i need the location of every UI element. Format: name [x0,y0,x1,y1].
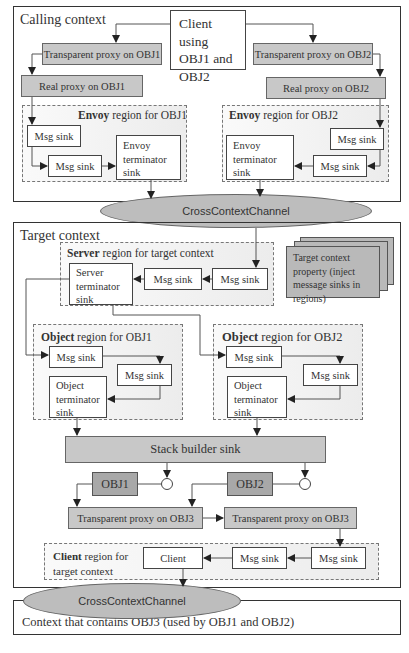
object1-terminator-sink: Object terminator sink [49,376,107,418]
rp-obj1-label: Real proxy on OBJ1 [39,81,125,92]
real-proxy-obj1: Real proxy on OBJ1 [21,75,143,97]
envoy1-msg-sink-1: Msg sink [27,125,81,147]
obj1-box: OBJ1 [92,472,138,496]
object1-msg-sink-1: Msg sink [49,346,103,368]
object2-msg-sink-2: Msg sink [303,364,358,386]
envoy-region-obj1-label: Envoy region for OBJ1 [78,109,187,121]
envoy2-msg-sink-2: Msg sink [313,155,367,177]
object-region-obj2-label: Object region for OBJ2 [222,330,342,345]
client-region-msg-sink-2: Msg sink [311,547,366,569]
tp-obj1-label: Transparent proxy on OBJ1 [44,49,161,60]
client-region-client: Client [143,547,203,569]
object2-terminator-sink: Object terminator sink [227,376,287,418]
envoy2-msg-sink-1: Msg sink [330,128,384,150]
object-region-obj1-label: Object region for OBJ1 [41,331,152,343]
server-msg-sink-2: Msg sink [212,268,268,290]
envoy1-msg-sink-2: Msg sink [48,155,102,177]
envoy2-terminator-sink: Envoy terminator sink [226,135,294,180]
envoy1-terminator-sink: Envoy terminator sink [116,135,181,180]
transparent-proxy-obj1: Transparent proxy on OBJ1 [42,43,162,65]
object1-msg-sink-2: Msg sink [117,364,172,386]
obj2-interface-circle [299,478,311,490]
cross-context-channel-2: CrossContextChannel [23,583,241,619]
server-terminator-sink: Server terminator sink [69,263,133,305]
client-box: Client using OBJ1 and OBJ2 [170,10,246,70]
stack-builder-sink: Stack builder sink [65,436,326,463]
target-context-property: Target context property (inject message … [286,246,380,298]
transparent-proxy-obj2: Transparent proxy on OBJ2 [253,43,373,65]
client-region-label: Client region for target context [53,549,133,579]
client-label: Client using OBJ1 and OBJ2 [179,15,237,85]
client-region-msg-sink-1: Msg sink [232,547,287,569]
obj2-box: OBJ2 [227,472,273,496]
tp-obj2-label: Transparent proxy on OBJ2 [255,49,372,60]
calling-context-label: Calling context [20,12,106,28]
target-context-property-label: Target context property (inject message … [287,247,379,309]
envoy-region-obj2-label: Envoy region for OBJ2 [229,109,338,121]
transparent-proxy-obj3-b: Transparent proxy on OBJ3 [224,507,357,529]
transparent-proxy-obj3-a: Transparent proxy on OBJ3 [68,507,203,529]
object2-msg-sink-1: Msg sink [226,346,282,368]
server-msg-sink-1: Msg sink [144,268,202,290]
obj1-interface-circle [161,478,173,490]
rp-obj2-label: Real proxy on OBJ2 [283,83,369,94]
server-region-label: Server region for target context [67,247,214,259]
real-proxy-obj2: Real proxy on OBJ2 [266,77,386,99]
